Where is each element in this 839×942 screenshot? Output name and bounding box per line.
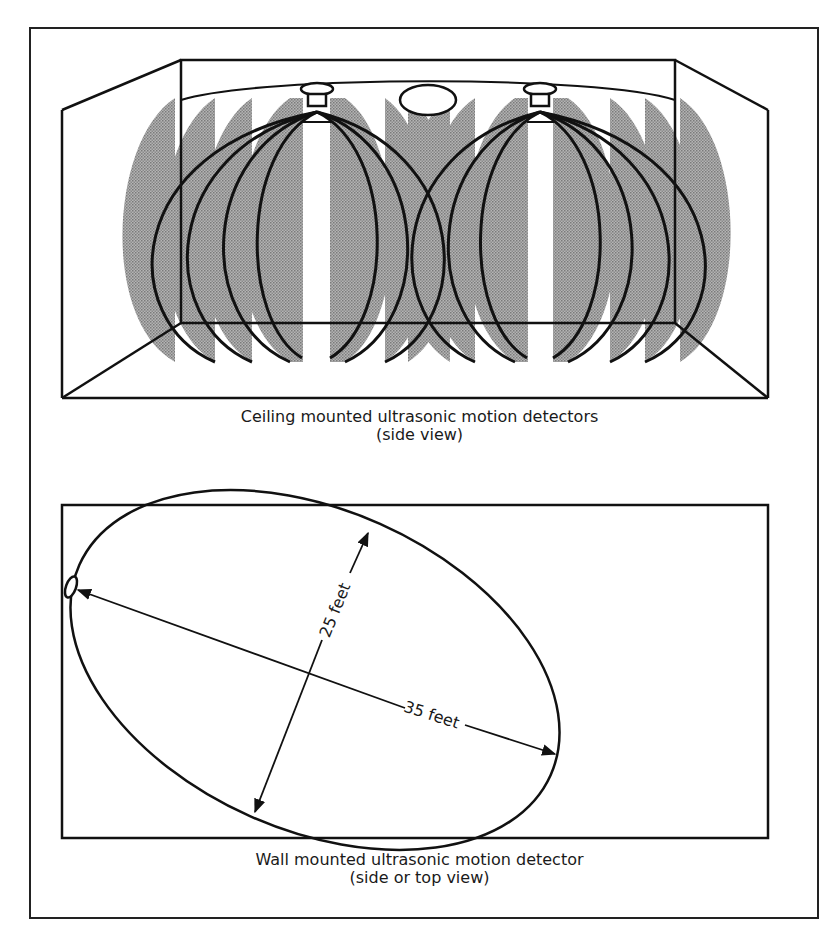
coverage-ellipse — [14, 419, 616, 921]
ceiling-caption-title: Ceiling mounted ultrasonic motion detect… — [0, 408, 839, 426]
motion-detector-diagram: 35 feet 25 feet — [0, 0, 839, 942]
width-label: 25 feet — [315, 580, 354, 640]
wall-detector-icon — [63, 575, 80, 599]
wall-panel: 35 feet 25 feet — [14, 419, 768, 921]
wall-caption-subtitle: (side or top view) — [0, 869, 839, 887]
wall-caption: Wall mounted ultrasonic motion detector … — [0, 851, 839, 887]
ceiling-panel — [62, 60, 768, 398]
wall-room-outline — [62, 505, 768, 838]
ceiling-caption-subtitle: (side view) — [0, 426, 839, 444]
length-label: 35 feet — [402, 697, 462, 733]
ceiling-caption: Ceiling mounted ultrasonic motion detect… — [0, 408, 839, 444]
wall-caption-title: Wall mounted ultrasonic motion detector — [0, 851, 839, 869]
overlap-ellipse — [400, 85, 456, 115]
